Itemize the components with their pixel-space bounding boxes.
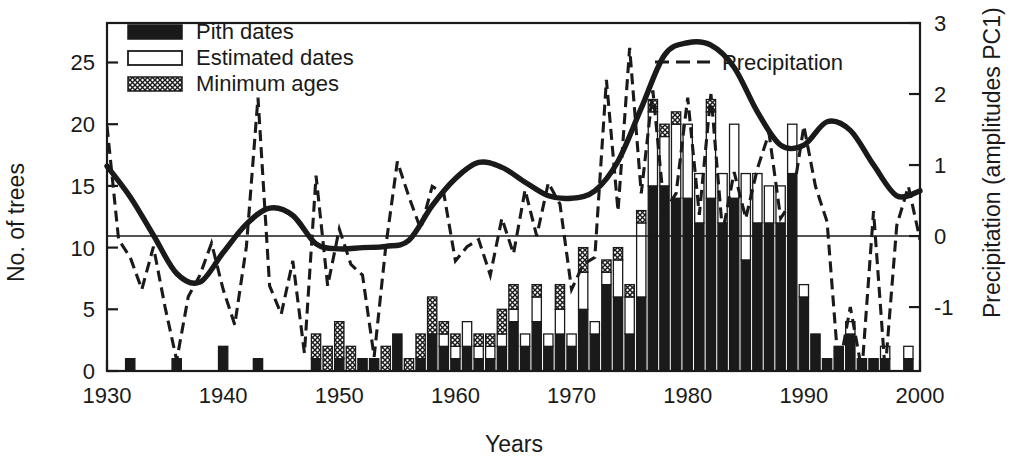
y-tick-label: 10: [71, 236, 95, 261]
bar-segment: [497, 309, 506, 334]
bar-segment: [671, 112, 680, 124]
y-tick-label: 15: [71, 174, 95, 199]
bar-segment: [764, 186, 773, 223]
bar-segment: [637, 223, 646, 297]
bar-segment: [358, 359, 367, 371]
bar-group: [753, 174, 762, 371]
bar-segment: [555, 285, 564, 310]
bar-segment: [625, 285, 634, 297]
y2-tick-label: -1: [934, 295, 954, 320]
bar-segment: [474, 359, 483, 371]
y-tick-label: 5: [83, 297, 95, 322]
bar-segment: [567, 334, 576, 346]
bar-segment: [590, 322, 599, 334]
bar-segment: [520, 346, 529, 371]
bar-group: [637, 211, 646, 371]
bar-segment: [811, 334, 820, 371]
bar-segment: [544, 346, 553, 371]
y2-tick-label: 2: [934, 82, 946, 107]
bar-group: [764, 186, 773, 371]
bar-segment: [625, 297, 634, 334]
y2-tick-label: 3: [934, 11, 946, 36]
bar-group: [439, 322, 448, 371]
bar-group: [474, 334, 483, 371]
bar-group: [602, 260, 611, 371]
bar-group: [311, 334, 320, 371]
bar-segment: [474, 346, 483, 358]
x-tick-label: 1960: [431, 383, 480, 408]
bar-segment: [555, 309, 564, 334]
bar-segment: [509, 322, 518, 371]
bar-group: [683, 124, 692, 371]
bar-segment: [706, 198, 715, 371]
bar-segment: [799, 297, 808, 371]
bar-segment: [904, 346, 913, 358]
bar-segment: [497, 334, 506, 346]
bar-group: [869, 359, 878, 371]
legend-label-pith-dates: Pith dates: [196, 19, 294, 44]
bar-segment: [613, 248, 622, 260]
bar-group: [462, 322, 471, 371]
bar-group: [486, 334, 495, 371]
y-tick-label: 25: [71, 50, 95, 75]
bar-group: [613, 248, 622, 371]
bar-group: [126, 359, 135, 371]
bar-segment: [695, 223, 704, 371]
bar-group: [323, 346, 332, 371]
bar-segment: [718, 223, 727, 371]
bar-segment: [869, 359, 878, 371]
bar-segment: [822, 359, 831, 371]
y-axis-title-group: No. of trees: [3, 163, 29, 282]
bar-segment: [613, 260, 622, 297]
bar-segment: [683, 198, 692, 371]
bar-segment: [532, 285, 541, 297]
bar-segment: [579, 272, 588, 309]
bar-group: [811, 334, 820, 371]
bar-group: [822, 359, 831, 371]
bar-segment: [416, 359, 425, 371]
x-axis-title: Years: [485, 431, 543, 457]
bar-group: [730, 124, 739, 371]
bar-segment: [462, 322, 471, 347]
bar-segment: [428, 334, 437, 371]
bar-segment: [369, 359, 378, 371]
bar-group: [497, 309, 506, 371]
bar-segment: [602, 260, 611, 272]
legend-label-estimated-dates: Estimated dates: [196, 45, 354, 70]
bar-segment: [637, 297, 646, 371]
bar-group: [369, 359, 378, 371]
y-tick-label: 20: [71, 112, 95, 137]
bar-group: [520, 334, 529, 371]
legend-precipitation: Precipitation: [655, 50, 843, 75]
bar-group: [393, 334, 402, 371]
x-axis-title-group: Years: [485, 431, 543, 457]
bar-segment: [579, 309, 588, 371]
bar-segment: [613, 297, 622, 371]
bar-segment: [648, 186, 657, 371]
bar-segment: [532, 322, 541, 371]
bar-group: [799, 285, 808, 371]
bar-group: [532, 285, 541, 371]
bar-group: [741, 174, 750, 371]
bar-segment: [404, 359, 413, 371]
bar-segment: [520, 334, 529, 346]
bar-segment: [381, 346, 390, 371]
bar-group: [416, 334, 425, 371]
x-tick-label: 1950: [315, 383, 364, 408]
legend-swatch-minimum-ages: [128, 77, 182, 91]
bar-segment: [451, 334, 460, 346]
bar-segment: [509, 309, 518, 321]
bar-segment: [428, 297, 437, 334]
bar-segment: [486, 346, 495, 358]
figure-container: 1930194019501960197019801990200005101520…: [0, 0, 1020, 462]
bar-segment: [335, 322, 344, 359]
bar-segment: [602, 272, 611, 284]
legend-label-precipitation: Precipitation: [722, 50, 843, 75]
bar-group: [404, 359, 413, 371]
bar-segment: [311, 359, 320, 371]
bar-group: [625, 285, 634, 371]
bar-segment: [776, 223, 785, 371]
bar-group: [346, 346, 355, 371]
chart-canvas: 1930194019501960197019801990200005101520…: [0, 0, 1020, 462]
bar-segment: [439, 334, 448, 346]
